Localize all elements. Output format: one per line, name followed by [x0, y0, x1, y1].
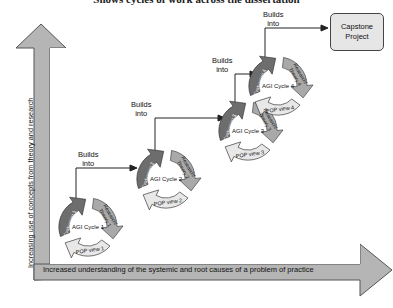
capstone-project-box: CapstoneProject: [330, 13, 384, 51]
builds-into-label-3: Buildsinto: [212, 56, 232, 74]
builds-into-label-2: Buildsinto: [131, 100, 151, 118]
horizontal-axis-label: Increased understanding of the systemic …: [43, 265, 314, 274]
builds-into-label-1: Buildsinto: [78, 150, 98, 168]
vertical-axis-label: Increasing use of concepts from theory a…: [26, 98, 35, 268]
builds-into-label-4: Buildsinto: [263, 10, 283, 28]
